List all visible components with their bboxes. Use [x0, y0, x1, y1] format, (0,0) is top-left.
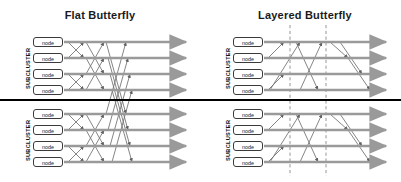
node-box-layered-0-0: node: [233, 37, 263, 47]
subcluster-label-flat-0: SUBCLUSTER: [25, 40, 31, 96]
link-layered-3: [268, 146, 284, 162]
node-box-flat-0-0: node: [33, 37, 63, 47]
node-box-flat-1-3: node: [33, 157, 63, 167]
diagram-root: Flat Butterfly Layered Butterfly SUBCLUS…: [0, 0, 401, 182]
node-box-layered-1-0: node: [233, 109, 263, 119]
link-layered-6: [296, 42, 318, 90]
node-box-layered-0-2: node: [233, 69, 263, 79]
subcluster-label-layered-1: SUBCLUSTER: [225, 112, 231, 168]
node-box-layered-0-3: node: [233, 85, 263, 95]
node-box-layered-1-1: node: [233, 125, 263, 135]
node-box-flat-0-1: node: [33, 53, 63, 63]
node-box-layered-1-2: node: [233, 141, 263, 151]
node-box-layered-1-3: node: [233, 157, 263, 167]
node-box-layered-0-1: node: [233, 53, 263, 63]
node-box-flat-1-2: node: [33, 141, 63, 151]
link-layered-1: [268, 74, 284, 90]
subcluster-label-flat-1: SUBCLUSTER: [25, 112, 31, 168]
link-layered-8: [300, 42, 322, 90]
subcluster-divider: [0, 99, 401, 101]
link-layered-5: [270, 114, 300, 162]
link-layered-9: [300, 114, 322, 162]
subcluster-label-layered-0: SUBCLUSTER: [225, 40, 231, 96]
link-layered-2: [268, 114, 284, 130]
node-box-flat-0-2: node: [33, 69, 63, 79]
node-box-flat-0-3: node: [33, 85, 63, 95]
link-layered-4: [270, 42, 300, 90]
interconnect-links: [68, 42, 370, 162]
node-box-flat-1-0: node: [33, 109, 63, 119]
link-layered-7: [296, 114, 318, 162]
node-box-flat-1-1: node: [33, 125, 63, 135]
link-layered-0: [268, 42, 284, 58]
